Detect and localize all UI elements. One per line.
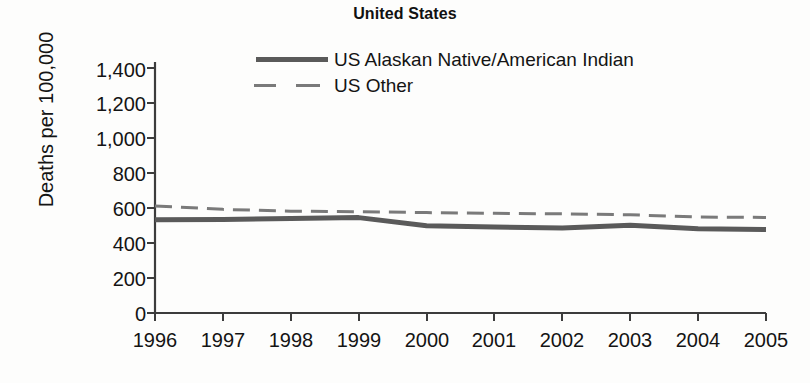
- legend-entry-alaskan-native-american-indian[interactable]: US Alaskan Native/American Indian: [252, 46, 722, 72]
- solid-line-swatch-icon: [252, 52, 330, 66]
- legend-label: US Alaskan Native/American Indian: [334, 50, 634, 69]
- chart-legend: US Alaskan Native/American Indian US Oth…: [252, 46, 722, 98]
- dashed-line-swatch-icon: [252, 78, 330, 92]
- legend-label: US Other: [334, 76, 413, 95]
- x-tick-label: 2005: [726, 330, 806, 350]
- legend-entry-us-other[interactable]: US Other: [252, 72, 722, 98]
- chart-figure: United States Deaths per 100,000 1,400 1…: [0, 0, 810, 383]
